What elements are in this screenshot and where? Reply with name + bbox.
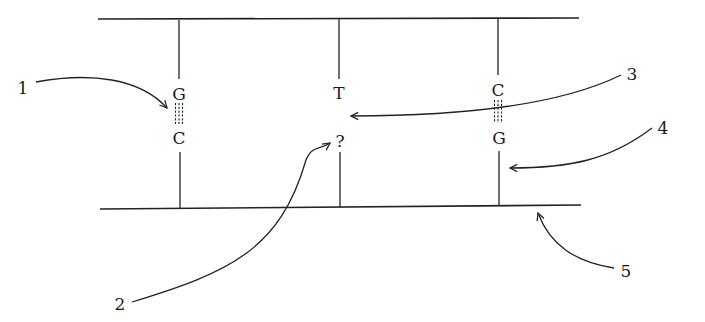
label-2: 2 (115, 294, 126, 314)
base-left-bottom: C (172, 128, 185, 148)
label-5: 5 (621, 261, 632, 281)
base-pair-middle: T ? (333, 19, 345, 207)
callout-1: 1 (18, 78, 167, 108)
label-1: 1 (18, 78, 29, 98)
base-pair-left: G C (172, 20, 186, 208)
top-strand (98, 18, 579, 19)
base-middle-bottom-unknown: ? (335, 131, 344, 151)
callout-2: 2 (115, 143, 330, 314)
base-pair-right: C G (491, 18, 505, 206)
base-middle-top: T (333, 83, 345, 103)
base-left-top: G (172, 84, 186, 104)
label-4: 4 (658, 118, 669, 138)
label-3: 3 (627, 64, 638, 84)
base-right-bottom: G (492, 128, 506, 148)
base-right-top: C (491, 80, 504, 100)
dna-diagram: G C T ? C G 1 2 3 4 (0, 0, 705, 322)
callout-5: 5 (538, 213, 631, 281)
callout-4: 4 (510, 118, 668, 168)
